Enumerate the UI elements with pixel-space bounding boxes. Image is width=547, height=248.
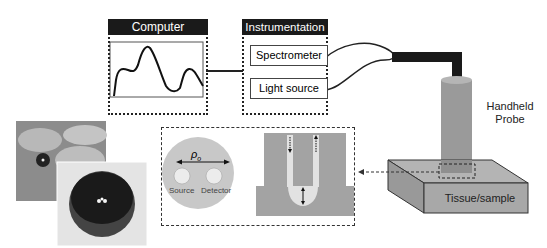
- probe-label-line2: Probe: [480, 113, 540, 126]
- light-source-box: Light source: [250, 78, 328, 99]
- fiber-cable-2: [325, 58, 394, 90]
- instrumentation-title: Instrumentation: [242, 19, 328, 35]
- probe-label: Handheld Probe: [480, 100, 540, 126]
- rho-label: ρo: [191, 148, 201, 162]
- zoom-arrow-head: [358, 169, 364, 175]
- probe-label-line1: Handheld: [480, 100, 540, 113]
- probe-contact: [441, 160, 472, 173]
- spectrometer-box: Spectrometer: [250, 45, 328, 66]
- detector-label: Detector: [201, 186, 231, 195]
- computer-title: Computer: [108, 19, 208, 35]
- fiber-cable-1: [325, 43, 394, 58]
- computer-panel: [108, 24, 208, 115]
- instrumentation-panel: [242, 24, 328, 115]
- inset-panel: [161, 127, 355, 226]
- probe-cable-head: [392, 52, 462, 79]
- tissue-label: Tissue/sample: [440, 192, 520, 204]
- probe-top: [441, 76, 472, 84]
- source-label: Source: [169, 186, 194, 195]
